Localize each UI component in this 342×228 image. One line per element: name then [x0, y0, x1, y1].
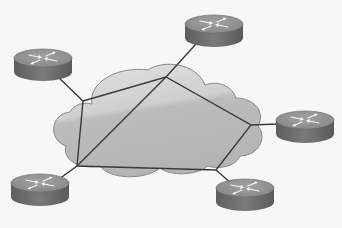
router-bottom-right: [216, 179, 274, 211]
router-icon: [11, 174, 69, 206]
router-icon: [185, 15, 243, 47]
router-icon: [216, 179, 274, 211]
network-diagram: [0, 0, 342, 228]
router-bottom-left: [11, 174, 69, 206]
router-right: [276, 111, 334, 143]
link-top-left-to-cloud: [57, 76, 83, 101]
router-icon: [14, 49, 72, 81]
link-right-to-cloud: [251, 124, 278, 125]
router-icon: [276, 111, 334, 143]
router-top-left: [14, 49, 72, 81]
router-top-middle: [185, 15, 243, 47]
wan-cloud: [54, 64, 262, 176]
